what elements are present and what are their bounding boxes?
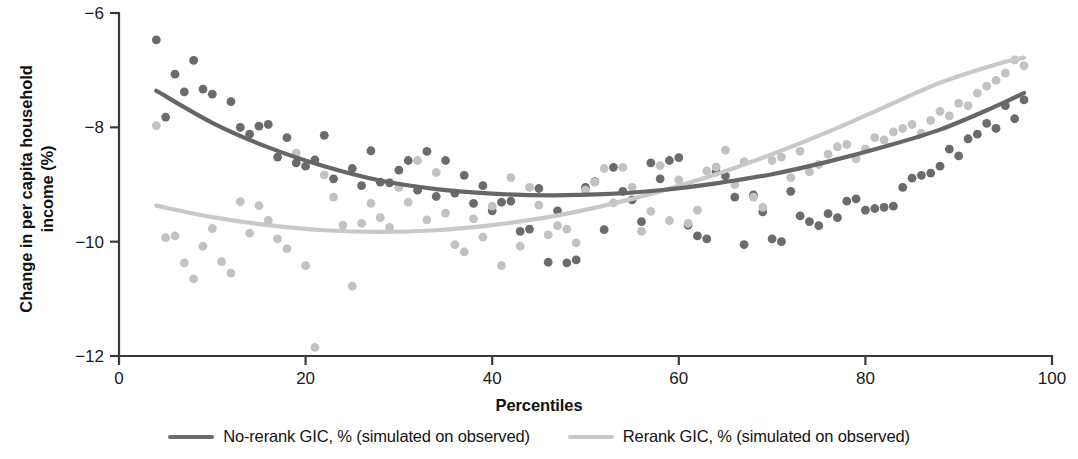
scatter-point	[273, 234, 282, 243]
scatter-point	[161, 113, 170, 122]
scatter-point	[749, 193, 758, 202]
scatter-point	[553, 221, 562, 230]
scatter-point	[488, 202, 497, 211]
legend-item-no-rerank[interactable]: No-rerank GIC, % (simulated on observed)	[168, 427, 530, 446]
scatter-point	[702, 166, 711, 175]
x-tick-label: 80	[856, 369, 875, 388]
x-axis-ticks	[119, 356, 1052, 365]
scatter-point	[301, 261, 310, 270]
scatter-point	[199, 242, 208, 251]
scatter-point	[637, 217, 646, 226]
scatter-point	[740, 240, 749, 249]
scatter-point	[572, 238, 581, 247]
scatter-point	[824, 209, 833, 218]
scatter-point	[992, 76, 1001, 85]
scatter-point	[311, 343, 320, 352]
scatter-point	[982, 119, 991, 128]
scatter-point	[861, 206, 870, 215]
trend-line-0	[156, 91, 1024, 196]
scatter-point	[516, 227, 525, 236]
scatter-point	[833, 142, 842, 151]
scatter-point	[534, 201, 543, 210]
scatter-point	[227, 97, 236, 106]
plot-area: −6−8−10−12 020406080100	[0, 0, 1078, 400]
scatter-point	[721, 146, 730, 155]
data-series-layer	[152, 35, 1028, 351]
x-axis-title: Percentiles	[0, 396, 1078, 415]
legend-line-swatch-rerank	[568, 435, 614, 439]
scatter-point	[945, 145, 954, 154]
scatter-point	[693, 232, 702, 241]
scatter-point	[422, 216, 431, 225]
scatter-point	[441, 156, 450, 165]
scatter-point	[964, 134, 973, 143]
scatter-point	[684, 219, 693, 228]
scatter-point	[199, 85, 208, 94]
x-axis-tick-labels: 020406080100	[114, 369, 1066, 388]
scatter-point	[367, 199, 376, 208]
scatter-point	[180, 258, 189, 267]
scatter-point	[982, 82, 991, 91]
x-tick-label: 100	[1038, 369, 1066, 388]
scatter-point	[656, 161, 665, 170]
scatter-point	[264, 120, 273, 129]
scatter-point	[637, 227, 646, 236]
scatter-point	[786, 173, 795, 182]
scatter-point	[954, 99, 963, 108]
legend-item-rerank[interactable]: Rerank GIC, % (simulated on observed)	[568, 427, 910, 446]
scatter-point	[413, 156, 422, 165]
scatter-point	[348, 282, 357, 291]
scatter-point	[432, 192, 441, 201]
scatter-point	[357, 181, 366, 190]
scatter-point	[693, 206, 702, 215]
scatter-point	[665, 156, 674, 165]
scatter-point	[973, 89, 982, 98]
scatter-point	[525, 225, 534, 234]
scatter-point	[478, 181, 487, 190]
scatter-point	[357, 219, 366, 228]
scatter-point	[208, 90, 217, 99]
legend-line-swatch-no-rerank	[168, 435, 214, 439]
x-tick-label: 40	[483, 369, 502, 388]
y-tick-label: −8	[85, 118, 104, 137]
scatter-point	[786, 187, 795, 196]
scatter-point	[460, 171, 469, 180]
chart-figure: Change in per capita household income (%…	[0, 0, 1078, 459]
scatter-point	[562, 258, 571, 267]
scatter-point	[152, 35, 161, 44]
scatter-point	[758, 203, 767, 212]
scatter-point	[1010, 114, 1019, 123]
scatter-point	[432, 168, 441, 177]
scatter-point	[674, 153, 683, 162]
scatter-point	[469, 199, 478, 208]
scatter-point	[329, 174, 338, 183]
scatter-point	[404, 156, 413, 165]
scatter-point	[161, 233, 170, 242]
scatter-point	[189, 274, 198, 283]
scatter-point	[824, 150, 833, 159]
scatter-point	[469, 214, 478, 223]
scatter-point	[880, 203, 889, 212]
scatter-point	[600, 164, 609, 173]
scatter-point	[171, 70, 180, 79]
scatter-point	[422, 147, 431, 156]
scatter-point	[609, 163, 618, 172]
scatter-point	[516, 242, 525, 251]
scatter-point	[702, 234, 711, 243]
scatter-point	[908, 174, 917, 183]
scatter-point	[171, 232, 180, 241]
scatter-point	[189, 56, 198, 65]
scatter-point	[898, 124, 907, 133]
scatter-point	[964, 101, 973, 110]
y-axis-tick-labels: −6−8−10−12	[75, 4, 104, 366]
scatter-point	[908, 120, 917, 129]
y-tick-label: −10	[75, 233, 104, 252]
y-tick-label: −6	[85, 4, 104, 23]
scatter-point	[870, 133, 879, 142]
scatter-point	[936, 162, 945, 171]
scatter-point	[236, 197, 245, 206]
scatter-point	[562, 225, 571, 234]
scatter-point	[656, 174, 665, 183]
scatter-point	[367, 146, 376, 155]
scatter-point	[796, 212, 805, 221]
